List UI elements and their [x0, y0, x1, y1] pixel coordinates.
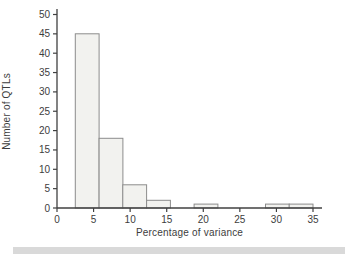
- y-axis-label: Number of QTLs: [1, 47, 12, 177]
- x-tick-label: 0: [54, 214, 60, 225]
- y-tick-label: 10: [39, 164, 51, 175]
- histogram-bar: [75, 34, 99, 208]
- y-tick-label: 25: [39, 106, 51, 117]
- histogram-bar: [147, 200, 171, 208]
- x-axis-label: Percentage of variance: [57, 227, 322, 238]
- x-tick-label: 25: [234, 214, 246, 225]
- histogram-bar: [123, 185, 147, 208]
- y-tick-label: 45: [39, 28, 51, 39]
- y-tick-label: 5: [44, 183, 50, 194]
- y-tick-label: 50: [39, 9, 51, 20]
- y-tick-label: 30: [39, 86, 51, 97]
- figure: 0510152025303505101520253035404550 Perce…: [0, 0, 345, 256]
- y-tick-label: 35: [39, 67, 51, 78]
- y-tick-label: 20: [39, 125, 51, 136]
- y-tick-label: 0: [44, 203, 50, 214]
- histogram-bar: [99, 138, 123, 208]
- x-tick-label: 10: [125, 214, 137, 225]
- y-tick-label: 15: [39, 144, 51, 155]
- y-tick-label: 40: [39, 48, 51, 59]
- histogram-chart: 0510152025303505101520253035404550: [0, 0, 345, 256]
- x-tick-label: 30: [271, 214, 283, 225]
- x-tick-label: 15: [161, 214, 173, 225]
- bottom-divider-strip: [13, 247, 345, 254]
- x-tick-label: 20: [198, 214, 210, 225]
- x-tick-label: 35: [307, 214, 319, 225]
- x-tick-label: 5: [91, 214, 97, 225]
